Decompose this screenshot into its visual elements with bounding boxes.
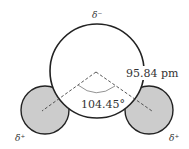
hydrogen-left-charge-label: δ⁺ [15, 133, 25, 143]
bond-angle-label: 104.45° [81, 98, 125, 111]
water-molecule-diagram: 95.84 pm 104.45° δ⁻ δ⁺ δ⁺ [0, 0, 189, 149]
bond-length-label: 95.84 pm [126, 67, 179, 80]
oxygen-charge-label: δ⁻ [92, 10, 102, 20]
hydrogen-right-charge-label: δ⁺ [169, 133, 179, 143]
